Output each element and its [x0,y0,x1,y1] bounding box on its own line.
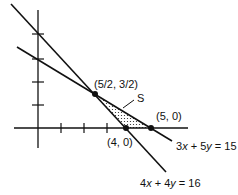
vertex-point-5-2-3-2 [92,91,98,97]
region-leader-line [123,100,134,108]
region-label-s: S [137,92,144,104]
lp-diagram: (5/2, 3/2) S (5, 0) (4, 0) 3x + 5y = 15 … [0,0,238,195]
vertex-label-5-0: (5, 0) [156,110,182,122]
vertex-point-5-0 [148,125,154,131]
equation-label-3x-5y-15: 3x + 5y = 15 [176,140,237,152]
equation-label-4x-4y-16: 4x + 4y = 16 [140,177,201,189]
vertex-point-4-0 [123,125,129,131]
line-4x-4y-16 [11,4,166,172]
vertex-label-5-2-3-2: (5/2, 3/2) [94,78,138,90]
vertex-label-4-0: (4, 0) [107,136,133,148]
